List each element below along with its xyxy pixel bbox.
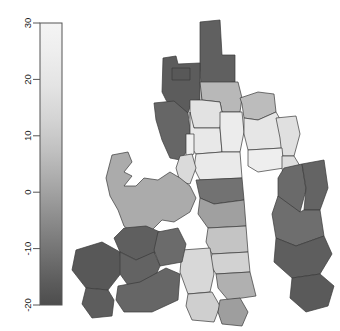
map-region <box>186 292 220 322</box>
map-region <box>154 101 190 160</box>
map-region <box>220 112 244 152</box>
figure-canvas: 30 20 10 0 -10 -20 <box>0 0 340 331</box>
choropleth-map <box>62 0 340 331</box>
map-svg <box>62 0 340 331</box>
map-region <box>216 272 256 300</box>
map-region <box>302 160 328 210</box>
map-region <box>210 252 250 274</box>
map-region <box>186 134 194 156</box>
map-region <box>190 100 222 128</box>
colorbar-label-20: 20 <box>22 74 33 85</box>
map-region <box>218 298 248 326</box>
colorbar-label-minus20: -20 <box>22 298 33 312</box>
colorbar-label-30: 30 <box>22 18 33 29</box>
map-region <box>290 274 334 312</box>
map-region <box>180 248 214 294</box>
map-region <box>206 226 248 254</box>
map-region <box>154 228 186 266</box>
map-region <box>194 152 242 180</box>
colorbar-gradient <box>40 23 62 305</box>
colorbar-label-minus10: -10 <box>22 242 33 256</box>
map-region <box>248 148 284 172</box>
map-region <box>82 288 114 318</box>
map-region <box>72 242 122 290</box>
colorbar-label-0: 0 <box>22 190 33 195</box>
colorbar-label-10: 10 <box>22 131 33 142</box>
map-region <box>172 68 190 80</box>
